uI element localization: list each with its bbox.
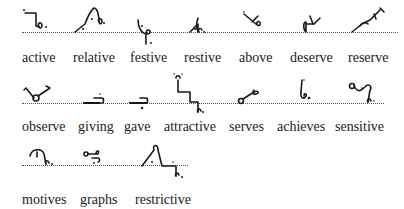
- word-motives: motives: [22, 192, 66, 208]
- restive-outline-icon: [188, 14, 214, 36]
- graphs-outline-icon: [82, 146, 106, 166]
- word-achieves: achieves: [277, 119, 325, 135]
- word-reserve: reserve: [348, 50, 388, 66]
- giving-outline-icon: [82, 92, 108, 106]
- above-outline-icon: [240, 10, 266, 32]
- restrictive-outline-icon: [140, 140, 186, 182]
- word-active: active: [22, 50, 55, 66]
- word-relative: relative: [73, 50, 115, 66]
- deserve-outline-icon: [300, 10, 326, 34]
- word-restive: restive: [184, 50, 221, 66]
- achieves-outline-icon: [296, 78, 318, 104]
- word-giving: giving: [78, 119, 114, 135]
- word-serves: serves: [229, 119, 264, 135]
- word-observe: observe: [22, 119, 66, 135]
- outline-row-1: active relative festive restive above de…: [0, 0, 404, 70]
- word-above: above: [239, 50, 272, 66]
- outline-row-2: observe giving gave attractive serves ac…: [0, 70, 404, 136]
- word-festive: festive: [130, 50, 167, 66]
- word-deserve: deserve: [290, 50, 333, 66]
- reserve-outline-icon: [350, 6, 386, 34]
- observe-outline-icon: [22, 84, 54, 104]
- word-graphs: graphs: [80, 192, 117, 208]
- active-outline-icon: [22, 6, 52, 34]
- word-restrictive: restrictive: [135, 192, 191, 208]
- attractive-outline-icon: [172, 72, 208, 118]
- gave-outline-icon: [128, 92, 152, 110]
- serves-outline-icon: [236, 84, 266, 106]
- motives-outline-icon: [28, 146, 58, 168]
- word-gave: gave: [124, 119, 150, 135]
- word-attractive: attractive: [164, 119, 216, 135]
- sensitive-outline-icon: [348, 80, 380, 106]
- festive-outline-icon: [134, 18, 164, 46]
- word-sensitive: sensitive: [335, 119, 384, 135]
- outline-row-3: motives graphs restrictive: [0, 136, 404, 209]
- relative-outline-icon: [73, 4, 107, 34]
